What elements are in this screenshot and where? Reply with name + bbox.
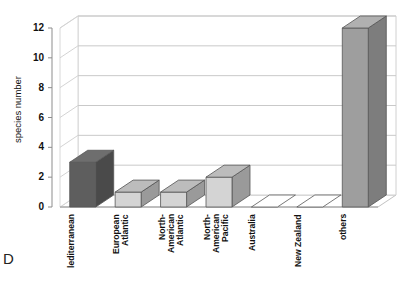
bar-chart-3d: 024681012lediterraneanEuropean AtlanticN… <box>0 0 401 281</box>
figure-panel: species number D 024681012lediterraneanE… <box>0 0 401 281</box>
x-tick-label: others <box>339 214 348 276</box>
